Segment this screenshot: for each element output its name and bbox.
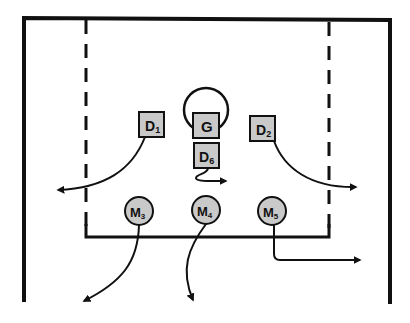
arrow-d2 [274,141,356,187]
player-M3: M3 [125,197,153,225]
play-diagram: D1 G D2 D6 M3 M4 M5 [0,0,410,323]
arrow-m4 [187,224,206,300]
player-D1: D1 [139,112,164,137]
player-M4: M4 [192,196,220,224]
player-G: G [193,113,219,138]
player-label: G [201,118,213,135]
arrow-m5 [274,225,360,260]
arrow-d1 [58,137,145,190]
player-M5: M5 [258,197,286,225]
player-D6: D6 [194,143,219,168]
arrow-d6 [196,168,226,181]
player-D2: D2 [250,116,275,141]
